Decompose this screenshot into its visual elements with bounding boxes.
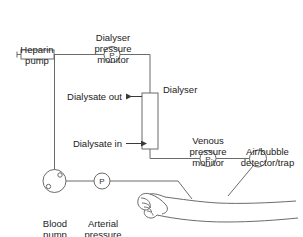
dialyser-label: Dialyser	[163, 84, 197, 95]
arterial-pressure-monitor-label: Arterial pressure monitor	[72, 196, 134, 237]
patient-arm-icon	[138, 193, 298, 222]
venous-pressure-monitor-label: Venous pressure monitor	[177, 113, 239, 190]
dialyser-pressure-monitor-label: Dialyser pressure monitor	[82, 10, 144, 87]
dialysate-out-label: Dialysate out	[36, 91, 122, 102]
dialyser-pressure-monitor-glyph: P	[105, 51, 119, 60]
dialyser-icon	[142, 93, 158, 149]
venous-pressure-monitor-glyph: P	[201, 155, 215, 164]
arterial-pressure-monitor-glyph: P	[95, 177, 109, 186]
blood-pump-icon	[43, 170, 66, 193]
heparin-pump-label: Heparin pump	[6, 22, 68, 88]
dialysis-circuit-diagram: Heparin pump Dialyser pressure monitor D…	[0, 0, 303, 237]
dialysate-in-label: Dialysate in	[40, 138, 122, 149]
air-bubble-detector-label: Air/bubble detector/trap	[232, 124, 303, 190]
